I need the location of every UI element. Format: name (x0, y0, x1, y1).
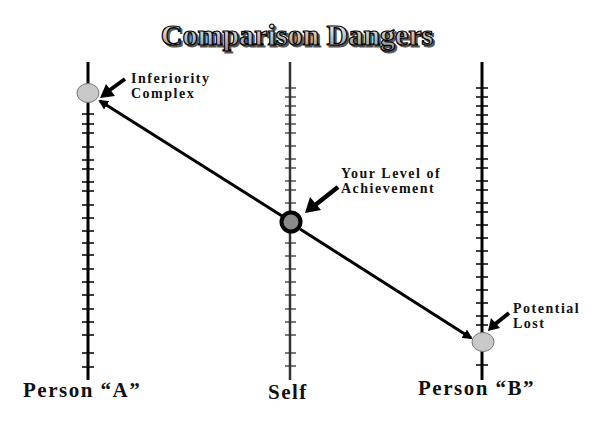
axis-label-self: Self (268, 380, 308, 405)
callout-line-1: Potential (513, 301, 580, 316)
axis-label-person-b: Person “B” (418, 376, 535, 401)
callout-arrow-icon (305, 187, 338, 213)
page-title: Comparison Dangers Comparison Dangers (161, 18, 436, 53)
callout-arrow-icon (488, 313, 509, 331)
axis-label-person-a: Person “A” (23, 378, 141, 403)
callout-arrow-icon (100, 79, 125, 98)
comparison-diagram: Comparison Dangers Comparison Dangers (0, 0, 611, 421)
callout-line-1: Inferiority (131, 71, 210, 86)
marker-inferiority (77, 84, 99, 103)
marker-potential (472, 333, 494, 352)
callout-potential-lost: Potential Lost (513, 301, 580, 331)
callout-line-2: Complex (131, 86, 210, 101)
callout-line-2: Achievement (341, 181, 441, 196)
arrow-to-person-b (300, 229, 471, 338)
callout-line-1: Your Level of (341, 166, 441, 181)
callout-your-level-of-achievement: Your Level of Achievement (341, 166, 441, 196)
axis-person-a (82, 62, 94, 380)
callout-inferiority-complex: Inferiority Complex (131, 71, 210, 101)
title-text: Comparison Dangers (161, 18, 434, 51)
arrow-to-person-a (100, 101, 282, 216)
callout-line-2: Lost (513, 316, 580, 331)
marker-self (282, 213, 301, 232)
